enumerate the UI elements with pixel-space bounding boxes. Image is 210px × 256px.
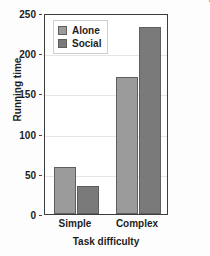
y-tick-mark bbox=[39, 175, 42, 176]
legend-item-alone: Alone bbox=[58, 24, 101, 37]
bar-chart-figure: Running time 050100150200250 Alone Socia… bbox=[0, 0, 210, 256]
y-tick-label: 50 bbox=[12, 169, 36, 180]
y-tick-label: 150 bbox=[12, 89, 36, 100]
y-tick-mark bbox=[39, 14, 42, 15]
legend-swatch-alone bbox=[58, 26, 67, 35]
y-tick-label: 100 bbox=[12, 129, 36, 140]
y-tick-mark bbox=[39, 54, 42, 55]
legend-label-social: Social bbox=[72, 38, 101, 49]
bar-simple-social bbox=[77, 186, 99, 214]
plot-area: Alone Social bbox=[44, 14, 168, 215]
y-tick-mark bbox=[39, 215, 42, 216]
y-tick-label: 250 bbox=[12, 9, 36, 20]
bar-simple-alone bbox=[54, 167, 76, 214]
legend: Alone Social bbox=[53, 20, 108, 54]
legend-swatch-social bbox=[58, 39, 67, 48]
y-axis-ticks: 050100150200250 bbox=[18, 0, 42, 256]
x-tick-label-simple: Simple bbox=[44, 218, 106, 229]
bar-complex-alone bbox=[116, 77, 138, 214]
y-tick-label: 0 bbox=[12, 210, 36, 221]
legend-label-alone: Alone bbox=[72, 25, 100, 36]
x-tick-label-complex: Complex bbox=[106, 218, 168, 229]
legend-item-social: Social bbox=[58, 37, 101, 50]
bar-complex-social bbox=[139, 27, 161, 214]
y-tick-mark bbox=[39, 135, 42, 136]
source-credit: From Zajonc, R.B. "Social enhancement an… bbox=[171, 0, 210, 256]
y-tick-label: 200 bbox=[12, 49, 36, 60]
x-axis-title: Task difficulty bbox=[44, 236, 168, 247]
source-credit-text: From Zajonc, R.B. "Social enhancement an… bbox=[209, 0, 210, 2]
y-tick-mark bbox=[39, 94, 42, 95]
